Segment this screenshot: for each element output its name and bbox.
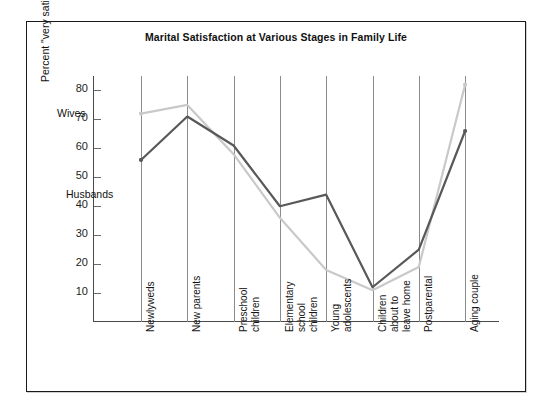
x-axis-label-4: adolescents: [342, 279, 354, 332]
chart-figure: Marital Satisfaction at Various Stages i…: [26, 21, 526, 392]
y-tick-label: 50: [76, 169, 88, 181]
x-axis-label-3: school: [296, 303, 308, 332]
x-axis-label-6: Postparental: [423, 276, 435, 332]
series-polyline-wives: [141, 85, 465, 290]
y-tick-label: 40: [76, 198, 88, 210]
y-tick-label: 80: [76, 82, 88, 94]
x-axis-label-0: Newlyweds: [145, 281, 157, 332]
x-axis-label-5: about to: [389, 296, 401, 332]
x-axis-label-3: Elementary: [284, 281, 296, 332]
x-axis-label-7: Aging couple: [469, 274, 481, 332]
y-axis-label: Percent "very satisfied" with marriage: [39, 0, 51, 82]
x-axis-label-4: Young: [330, 304, 342, 332]
x-axis-label-5: leave home: [401, 280, 413, 332]
data-point-wives-0: [139, 112, 143, 116]
x-axis-label-2: children: [250, 297, 262, 332]
y-tick-label: 20: [76, 256, 88, 268]
y-tick-label: 30: [76, 227, 88, 239]
data-point-wives-7: [463, 83, 467, 87]
series-label-husbands: Husbands: [66, 188, 113, 200]
series-label-wives: Wives: [57, 107, 86, 119]
y-tick-label: 60: [76, 140, 88, 152]
data-point-husbands-0: [139, 158, 143, 162]
x-axis-label-3: children: [308, 297, 320, 332]
x-axis-label-1: New parents: [191, 276, 203, 332]
plot-area: 1020304050607080 Wives Husbands Newlywed…: [93, 76, 499, 322]
x-axis-label-5: Children: [377, 295, 389, 332]
series-polyline-husbands: [141, 117, 465, 288]
data-point-husbands-7: [463, 129, 467, 133]
chart-title: Marital Satisfaction at Various Stages i…: [27, 31, 525, 43]
y-tick-label: 10: [76, 285, 88, 297]
x-axis-label-2: Preschool: [238, 288, 250, 332]
